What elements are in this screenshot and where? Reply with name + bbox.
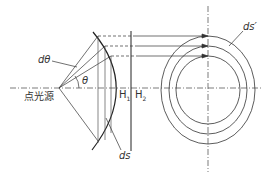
theta-label: θ [82,76,88,86]
h2-text: H [135,89,143,100]
optics-diagram [0,0,270,176]
h1-subscript: 1 [127,95,131,102]
dtheta-label: dθ [38,55,50,65]
ds-leader [106,118,121,150]
ds-prime-label: ds′ [243,22,257,32]
ds-prime-leader [229,31,243,46]
point-source-label: 点光源 [24,92,54,102]
source-rays [59,36,111,141]
dtheta-leader [52,61,77,67]
lens-verticals [98,36,111,143]
h1-label: H1 [119,90,130,102]
h2-subscript: 2 [143,95,147,102]
ds-label: ds [119,151,131,161]
h2-label: H2 [135,90,146,102]
h1-text: H [119,89,127,100]
